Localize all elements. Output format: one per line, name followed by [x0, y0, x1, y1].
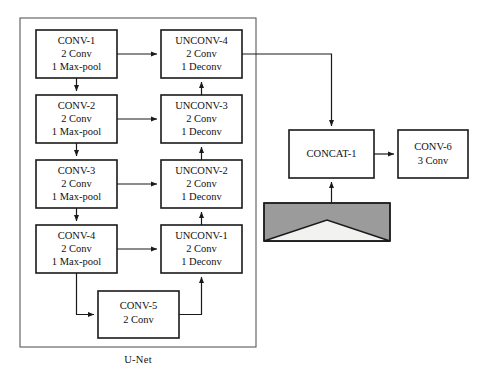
conv-3-line-1: CONV-3: [58, 165, 96, 176]
unconv-1-line-1: UNCONV-1: [175, 230, 228, 241]
conv-6-line-2: 3 Conv: [418, 155, 449, 166]
conv-3-block[interactable]: CONV-3 2 Conv 1 Max-pool: [36, 160, 117, 208]
conv-6-block[interactable]: CONV-6 3 Conv: [398, 130, 468, 178]
unconv-3-line-1: UNCONV-3: [175, 100, 228, 111]
unconv-1-line-2: 2 Conv: [186, 243, 217, 254]
conv-4-line-3: 1 Max-pool: [52, 256, 101, 267]
conv-2-line-2: 2 Conv: [61, 113, 92, 124]
unconv-2-block[interactable]: UNCONV-2 2 Conv 1 Deconv: [161, 160, 242, 208]
diagram-canvas: U-Net: [0, 0, 487, 381]
connection-conv4-to-conv5: [77, 273, 95, 315]
conv-4-block[interactable]: CONV-4 2 Conv 1 Max-pool: [36, 225, 117, 273]
unet-architecture-diagram: U-Net: [0, 0, 487, 381]
unconv-1-block[interactable]: UNCONV-1 2 Conv 1 Deconv: [161, 225, 242, 273]
unconv-3-line-2: 2 Conv: [186, 113, 217, 124]
unconv-1-line-3: 1 Deconv: [181, 256, 222, 267]
conv-5-line-2: 2 Conv: [123, 314, 154, 325]
unconv-2-line-2: 2 Conv: [186, 178, 217, 189]
conv-5-block[interactable]: CONV-5 2 Conv: [98, 291, 179, 338]
conv-6-line-1: CONV-6: [414, 141, 452, 152]
concat-1-block[interactable]: CONCAT-1: [289, 130, 374, 178]
unconv-2-line-1: UNCONV-2: [175, 165, 228, 176]
conv-2-block[interactable]: CONV-2 2 Conv 1 Max-pool: [36, 95, 117, 143]
unconv-4-block[interactable]: UNCONV-4 2 Conv 1 Deconv: [161, 30, 242, 78]
conv-2-line-3: 1 Max-pool: [52, 126, 101, 137]
unconv-4-line-1: UNCONV-4: [175, 35, 228, 46]
unconv-3-line-3: 1 Deconv: [181, 126, 222, 137]
unconv-3-block[interactable]: UNCONV-3 2 Conv 1 Deconv: [161, 95, 242, 143]
conv-1-block[interactable]: CONV-1 2 Conv 1 Max-pool: [36, 30, 117, 78]
conv-2-line-1: CONV-2: [58, 100, 96, 111]
unet-group-label: U-Net: [124, 354, 152, 365]
conv-3-line-2: 2 Conv: [61, 178, 92, 189]
concat-1-line-1: CONCAT-1: [307, 148, 357, 159]
conv-4-line-2: 2 Conv: [61, 243, 92, 254]
connection-conv5-to-unconv1: [179, 277, 202, 315]
conv-1-line-2: 2 Conv: [61, 48, 92, 59]
unconv-4-line-3: 1 Deconv: [181, 61, 222, 72]
conv-3-line-3: 1 Max-pool: [52, 191, 101, 202]
conv-5-line-1: CONV-5: [120, 300, 158, 311]
input-image-thumbnail[interactable]: [264, 203, 390, 241]
conv-1-line-1: CONV-1: [58, 35, 96, 46]
unconv-2-line-3: 1 Deconv: [181, 191, 222, 202]
connection-unconv4-to-concat1: [242, 54, 332, 126]
conv-1-line-3: 1 Max-pool: [52, 61, 101, 72]
conv-4-line-1: CONV-4: [58, 230, 96, 241]
unconv-4-line-2: 2 Conv: [186, 48, 217, 59]
